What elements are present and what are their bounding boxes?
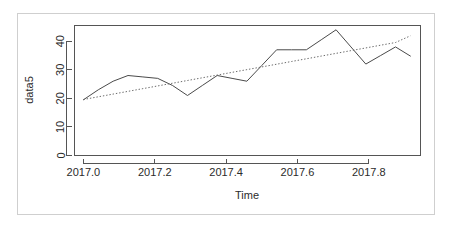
trend-line (83, 36, 410, 100)
y-axis-tick-label: 40 (55, 35, 67, 47)
y-axis-tick-label: 10 (55, 121, 67, 133)
x-axis-tick-label: 2017.6 (281, 166, 315, 178)
plot-box (75, 26, 421, 156)
x-axis-title: Time (235, 189, 259, 201)
x-axis: 2017.02017.22017.42017.62017.8 (67, 159, 386, 178)
plot-canvas: 010203040 2017.02017.22017.42017.62017.8… (0, 0, 449, 228)
data-series-line (83, 30, 410, 100)
figure-root: 010203040 2017.02017.22017.42017.62017.8… (0, 0, 449, 228)
y-axis-tick-label: 0 (55, 152, 67, 158)
x-axis-tick-label: 2017.2 (138, 166, 172, 178)
x-axis-tick-label: 2017.4 (209, 166, 243, 178)
y-axis-title: data5 (23, 76, 35, 104)
y-axis: 010203040 (55, 35, 72, 158)
y-axis-tick-label: 30 (55, 64, 67, 76)
x-axis-tick-label: 2017.0 (67, 166, 101, 178)
y-axis-tick-label: 20 (55, 92, 67, 104)
data-series-lines (83, 30, 410, 100)
x-axis-tick-label: 2017.8 (352, 166, 386, 178)
